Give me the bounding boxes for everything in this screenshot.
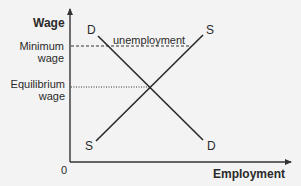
minimum-wage-label: Minimum wage (10, 40, 64, 64)
supply-bottom-label: S (85, 140, 93, 152)
equilibrium-wage-label-line2: wage (4, 90, 65, 102)
minimum-wage-label-line1: Minimum (10, 40, 64, 52)
demand-top-label: D (87, 24, 96, 36)
origin-label: 0 (61, 164, 67, 176)
employment-axis-label: Employment (213, 168, 285, 180)
wage-axis-label: Wage (33, 17, 65, 29)
equilibrium-wage-label: Equilibrium wage (4, 78, 65, 102)
equilibrium-wage-label-line1: Equilibrium (4, 78, 65, 90)
unemployment-label: unemployment (113, 34, 185, 46)
supply-top-label: S (206, 24, 214, 36)
demand-bottom-label: D (207, 140, 216, 152)
minimum-wage-label-line2: wage (10, 52, 64, 64)
